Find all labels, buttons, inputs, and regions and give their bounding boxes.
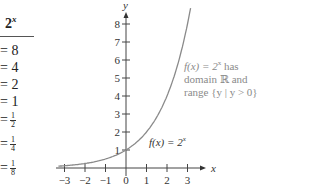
y-tick-label: 3 <box>115 108 121 120</box>
y-tick-label: 4 <box>115 90 121 102</box>
x-tick-label: 3 <box>185 174 191 186</box>
y-tick-label: 5 <box>115 72 121 84</box>
y-tick-label: 6 <box>115 54 121 66</box>
x-axis-label: x <box>210 162 216 174</box>
x-tick-label: 1 <box>144 174 150 186</box>
y-axis-arrow-icon <box>124 12 129 18</box>
curve-label: f(x) = 2x <box>149 135 186 148</box>
y-tick-label: 8 <box>115 18 121 30</box>
x-tick-label: 0 <box>123 174 129 186</box>
y-tick-label: 2 <box>115 126 121 138</box>
x-axis-arrow-icon <box>200 166 206 171</box>
y-axis-label: y <box>122 0 128 11</box>
x-tick-label: −2 <box>79 174 91 186</box>
domain-range-note: f(x) = 2x has domain ℝ and range {y | y … <box>184 57 258 99</box>
x-tick-label: −1 <box>100 174 112 186</box>
y-tick-label: 7 <box>115 36 121 48</box>
x-tick-label: 2 <box>164 174 170 186</box>
x-tick-label: −3 <box>59 174 71 186</box>
